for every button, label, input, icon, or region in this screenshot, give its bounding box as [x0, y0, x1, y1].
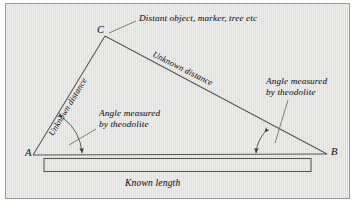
figure-canvas: C A B Distant object, marker, tree etc U…	[0, 0, 356, 209]
angle-arc-b	[256, 133, 265, 154]
leader-angle-left	[69, 129, 96, 145]
vertex-label-c: C	[97, 24, 104, 36]
angle-arc-a	[63, 118, 83, 154]
label-angle-right-line1: Angle measured	[266, 76, 327, 86]
side-ab-baseline	[33, 154, 327, 155]
label-distant-object: Distant object, marker, tree etc	[139, 13, 257, 23]
known-length-bar	[44, 159, 311, 172]
label-angle-left-line1: Angle measured	[99, 108, 160, 118]
label-angle-left-line2: by theodolite	[99, 119, 149, 129]
vertex-label-a: A	[25, 147, 32, 159]
label-angle-right-line2: by theodolite	[266, 87, 316, 97]
vertex-label-b: B	[331, 146, 338, 158]
leader-angle-right	[275, 100, 288, 143]
label-known-length: Known length	[125, 178, 180, 189]
leader-distant-object	[109, 21, 136, 33]
